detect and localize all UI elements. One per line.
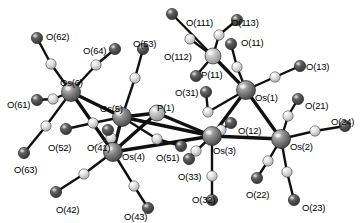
atom-o33 xyxy=(183,153,194,164)
atom-c11 xyxy=(232,62,242,72)
specular-highlight xyxy=(193,148,196,150)
specular-highlight xyxy=(296,63,299,65)
bond-layer xyxy=(24,14,345,208)
specular-highlight xyxy=(208,197,211,199)
atom-c111 xyxy=(185,34,195,44)
specular-highlight xyxy=(187,36,190,38)
atom-o11 xyxy=(225,38,236,49)
atom-c62 xyxy=(46,59,56,69)
specular-highlight xyxy=(205,109,208,111)
specular-highlight xyxy=(90,120,93,122)
specular-highlight xyxy=(20,150,23,152)
specular-highlight xyxy=(131,183,134,185)
atom-c113 xyxy=(214,30,224,40)
molecular-structure-figure: Os(1)Os(2)Os(3)Os(4)Os(5)Os(6)P(1)P(11)O… xyxy=(0,0,363,223)
atom-c24 xyxy=(310,126,320,136)
atom-c61 xyxy=(48,94,58,104)
atom-os2 xyxy=(272,130,291,149)
atom-c53 xyxy=(130,73,140,83)
atom-c23 xyxy=(282,167,292,177)
atom-c43 xyxy=(129,181,139,191)
atom-o62 xyxy=(31,32,42,43)
specular-highlight xyxy=(240,84,246,88)
specular-highlight xyxy=(265,158,268,160)
atom-o61 xyxy=(31,94,42,105)
specular-highlight xyxy=(139,46,142,48)
specular-highlight xyxy=(168,11,171,13)
specular-highlight xyxy=(50,96,53,98)
atom-c32 xyxy=(207,171,217,181)
specular-highlight xyxy=(209,173,212,175)
specular-highlight xyxy=(154,136,157,138)
atom-os5 xyxy=(113,108,132,127)
atom-o31 xyxy=(200,86,211,97)
specular-highlight xyxy=(52,189,55,191)
specular-highlight xyxy=(65,86,71,90)
atom-c52 xyxy=(88,118,98,128)
structure-canvas xyxy=(0,0,363,223)
specular-highlight xyxy=(107,146,113,150)
atom-o42 xyxy=(50,186,61,197)
atom-c51 xyxy=(152,134,162,144)
atom-o41 xyxy=(102,124,113,135)
atom-o64 xyxy=(109,43,120,54)
specular-highlight xyxy=(177,143,180,145)
specular-highlight xyxy=(284,169,287,171)
atom-c22 xyxy=(263,156,273,166)
atom-o23 xyxy=(288,194,299,205)
specular-highlight xyxy=(294,96,297,98)
atom-o22 xyxy=(251,172,262,183)
specular-highlight xyxy=(341,123,344,125)
atom-c63 xyxy=(41,121,51,131)
specular-highlight xyxy=(227,120,230,122)
atom-os6 xyxy=(62,83,81,102)
atom-c31 xyxy=(203,107,213,117)
atom-o43 xyxy=(142,202,153,213)
atom-os1 xyxy=(237,81,256,100)
specular-highlight xyxy=(152,108,157,112)
specular-highlight xyxy=(208,51,213,55)
specular-highlight xyxy=(312,128,315,130)
specular-highlight xyxy=(144,205,147,207)
specular-highlight xyxy=(202,89,205,91)
specular-highlight xyxy=(33,97,36,99)
specular-highlight xyxy=(234,64,237,66)
specular-highlight xyxy=(116,111,122,115)
specular-highlight xyxy=(253,175,256,177)
atom-c21 xyxy=(283,111,293,121)
specular-highlight xyxy=(62,126,65,128)
leader-line-layer xyxy=(92,140,106,148)
specular-highlight xyxy=(290,197,293,199)
specular-highlight xyxy=(275,133,281,137)
atom-c13 xyxy=(270,72,280,82)
atom-o52 xyxy=(60,123,71,134)
atom-o112 xyxy=(190,70,201,81)
atom-o63 xyxy=(18,147,29,158)
atom-p11 xyxy=(205,48,221,64)
atom-p1 xyxy=(149,105,165,121)
specular-highlight xyxy=(33,35,36,37)
atom-o113 xyxy=(231,14,242,25)
specular-highlight xyxy=(216,32,219,34)
specular-highlight xyxy=(81,171,84,173)
specular-highlight xyxy=(104,127,107,129)
specular-highlight xyxy=(185,156,188,158)
atom-os4 xyxy=(104,143,123,162)
atom-os3 xyxy=(203,127,222,146)
specular-highlight xyxy=(111,46,114,48)
specular-highlight xyxy=(206,130,212,134)
specular-highlight xyxy=(192,73,195,75)
atom-o51 xyxy=(175,140,186,151)
specular-highlight xyxy=(285,113,288,115)
atom-o21 xyxy=(292,93,303,104)
specular-highlight xyxy=(227,41,230,43)
atom-o53 xyxy=(137,43,148,54)
atom-o12 xyxy=(225,117,236,128)
atom-c64 xyxy=(91,60,101,70)
specular-highlight xyxy=(93,62,96,64)
atom-o24 xyxy=(339,120,350,131)
specular-highlight xyxy=(132,75,135,77)
specular-highlight xyxy=(233,17,236,19)
o41-leader xyxy=(92,140,106,148)
atom-o32 xyxy=(206,194,217,205)
